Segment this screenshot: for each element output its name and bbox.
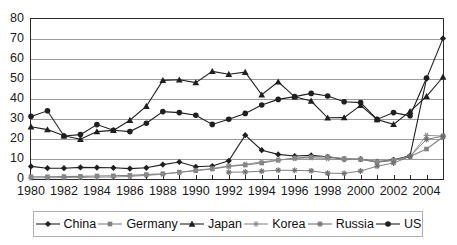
y-axis-tick-label: 0 <box>0 171 24 185</box>
data-point-diamond <box>226 158 232 164</box>
legend-label: US <box>404 217 421 231</box>
y-axis-tick-label: 60 <box>0 51 24 65</box>
legend-marker-asterisk-icon <box>307 218 333 230</box>
data-point-circle <box>160 109 166 115</box>
data-point-circle <box>292 94 298 100</box>
data-point-diamond <box>61 165 67 171</box>
y-axis-tick-label: 20 <box>0 131 24 145</box>
data-point-circle <box>385 221 391 227</box>
data-point-circle <box>209 122 215 128</box>
data-point-circle <box>193 112 199 118</box>
data-point-asterisk <box>292 168 298 174</box>
series-line <box>31 137 443 177</box>
x-axis-tick-label: 1988 <box>149 184 177 198</box>
plot-area-wrapper: 01020304050607080 1980198219841986198819… <box>0 0 457 182</box>
series-line <box>31 135 443 178</box>
data-point-circle <box>275 97 281 103</box>
legend-item-germany[interactable]: Germany <box>97 217 177 231</box>
x-axis-tick-label: 1994 <box>248 184 276 198</box>
data-point-circle <box>242 111 248 117</box>
data-point-circle <box>61 133 67 139</box>
legend-label: Korea <box>272 217 305 231</box>
legend-item-china[interactable]: China <box>35 217 97 231</box>
data-point-square <box>108 222 113 227</box>
data-point-circle <box>226 116 232 122</box>
data-point-circle <box>177 110 183 116</box>
legend-label: Germany <box>126 217 177 231</box>
x-axis-tick-label: 1998 <box>314 184 342 198</box>
data-point-circle <box>127 129 133 135</box>
legend-item-us[interactable]: US <box>375 217 421 231</box>
x-axis-tick-label: 1992 <box>215 184 243 198</box>
data-point-asterisk <box>374 163 380 169</box>
x-axis-tick-label: 2004 <box>413 184 441 198</box>
x-axis-tick-label: 2000 <box>347 184 375 198</box>
data-point-circle <box>28 114 34 120</box>
data-point-square <box>424 147 429 152</box>
chart-legend: ChinaGermanyJapanKoreaRussiaUS <box>33 211 423 237</box>
data-point-circle <box>111 127 117 133</box>
y-axis-tick-label: 40 <box>0 91 24 105</box>
data-point-diamond <box>44 165 50 171</box>
data-point-asterisk <box>424 137 430 143</box>
data-point-triangle <box>242 69 249 75</box>
x-axis-tick-label: 1982 <box>50 184 78 198</box>
legend-label: Russia <box>336 217 374 231</box>
data-point-circle <box>358 100 364 106</box>
y-axis-tick-label: 10 <box>0 151 24 165</box>
legend-item-russia[interactable]: Russia <box>307 217 374 231</box>
data-point-circle <box>308 91 314 97</box>
series-line <box>31 38 443 168</box>
data-point-diamond <box>110 165 116 171</box>
legend-marker-square-icon <box>97 218 123 230</box>
legend-item-japan[interactable]: Japan <box>179 217 242 231</box>
series-japan <box>28 68 447 142</box>
legend-marker-diamond-icon <box>35 218 61 230</box>
data-point-asterisk <box>242 169 248 175</box>
data-point-diamond <box>77 164 83 170</box>
x-axis-tick-label: 1986 <box>116 184 144 198</box>
data-point-asterisk <box>308 168 314 174</box>
data-point-diamond <box>143 165 149 171</box>
data-point-triangle <box>143 103 150 109</box>
data-point-triangle <box>275 78 282 84</box>
data-point-asterisk <box>325 170 331 176</box>
data-point-asterisk <box>407 154 413 160</box>
plot-area <box>30 18 444 180</box>
y-axis-tick-label: 80 <box>0 11 24 25</box>
data-point-circle <box>407 113 413 119</box>
data-point-circle <box>259 102 265 108</box>
data-point-circle <box>78 132 84 138</box>
data-point-diamond <box>127 166 133 172</box>
data-point-diamond <box>28 163 34 169</box>
data-point-diamond <box>160 162 166 168</box>
y-axis-tick-label: 50 <box>0 71 24 85</box>
legend-label: Japan <box>208 217 242 231</box>
data-point-diamond <box>44 221 50 227</box>
data-point-asterisk <box>440 133 446 139</box>
data-point-diamond <box>275 151 281 157</box>
data-point-triangle <box>209 68 216 74</box>
data-point-circle <box>325 93 331 99</box>
data-point-diamond <box>94 165 100 171</box>
data-point-circle <box>374 117 380 123</box>
x-axis-tick-label: 1990 <box>182 184 210 198</box>
series-line <box>31 78 427 136</box>
data-point-circle <box>45 108 51 114</box>
data-point-circle <box>424 75 430 81</box>
data-point-asterisk <box>391 160 397 166</box>
legend-item-korea[interactable]: Korea <box>243 217 305 231</box>
x-axis-tick-label: 1980 <box>17 184 45 198</box>
x-axis-tick-label: 1984 <box>83 184 111 198</box>
data-point-asterisk <box>358 168 364 174</box>
series-line <box>31 71 443 139</box>
data-point-asterisk <box>226 169 232 175</box>
data-point-asterisk <box>341 171 347 177</box>
data-point-circle <box>144 120 150 126</box>
data-point-triangle <box>28 123 35 129</box>
x-axis-tick-label: 2002 <box>380 184 408 198</box>
data-point-asterisk <box>275 167 281 173</box>
legend-label: China <box>64 217 97 231</box>
y-axis-tick-label: 30 <box>0 111 24 125</box>
data-point-asterisk <box>317 221 323 227</box>
